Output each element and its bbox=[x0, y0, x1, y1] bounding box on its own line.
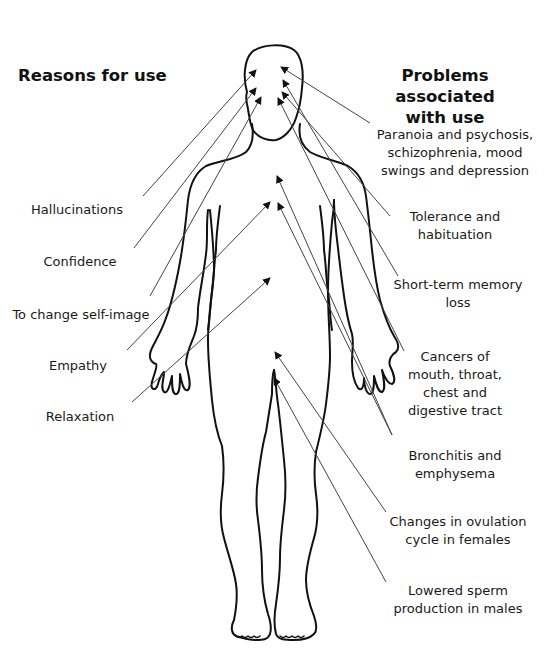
problem-cancers-line: digestive tract bbox=[400, 402, 510, 420]
problem-bronchitis: Bronchitis and emphysema bbox=[400, 447, 510, 483]
problem-cancers-line: chest and bbox=[400, 384, 510, 402]
problem-ovulation: Changes in ovulation cycle in females bbox=[383, 513, 533, 549]
body-effects-diagram: Reasons for use Problems associated with… bbox=[0, 0, 553, 669]
problem-tolerance-line: Tolerance and bbox=[395, 208, 515, 226]
problem-tolerance-line: habituation bbox=[395, 226, 515, 244]
pointer-bronchitis-2 bbox=[278, 203, 392, 435]
problem-short-term-memory: Short-term memory loss bbox=[383, 276, 533, 312]
problem-paranoia-line: swings and depression bbox=[370, 162, 540, 180]
problem-cancers-line: mouth, throat, bbox=[400, 366, 510, 384]
pointer-confidence bbox=[134, 88, 256, 248]
reason-change-self-image: To change self-image bbox=[6, 306, 156, 324]
problem-sperm-line: production in males bbox=[393, 600, 523, 618]
problems-heading-line-1: Problems associated bbox=[355, 65, 535, 107]
problems-heading-line-2: with use bbox=[355, 107, 535, 128]
problem-paranoia-line: Paranoia and psychosis, bbox=[370, 126, 540, 144]
problem-ovulation-line: cycle in females bbox=[383, 531, 533, 549]
problem-ovulation-line: Changes in ovulation bbox=[383, 513, 533, 531]
reason-pointer-lines bbox=[127, 70, 270, 402]
problem-bronchitis-line: emphysema bbox=[400, 465, 510, 483]
problem-sperm-production: Lowered sperm production in males bbox=[393, 582, 523, 618]
problem-cancers: Cancers of mouth, throat, chest and dige… bbox=[400, 348, 510, 420]
pointer-hallucinations bbox=[143, 70, 256, 196]
problem-sperm-line: Lowered sperm bbox=[393, 582, 523, 600]
reason-empathy: Empathy bbox=[38, 357, 118, 375]
pointer-sperm bbox=[274, 378, 386, 582]
problem-paranoia-line: schizophrenia, mood bbox=[370, 144, 540, 162]
reason-confidence: Confidence bbox=[30, 253, 130, 271]
human-body-outline-icon bbox=[150, 45, 398, 640]
problems-heading: Problems associated with use bbox=[355, 65, 535, 128]
pointer-empathy bbox=[127, 202, 270, 350]
pointer-relaxation bbox=[132, 278, 270, 402]
pointer-ovulation bbox=[275, 352, 386, 512]
reason-relaxation: Relaxation bbox=[30, 408, 130, 426]
problem-memory-line: loss bbox=[383, 294, 533, 312]
problem-memory-line: Short-term memory bbox=[383, 276, 533, 294]
problem-paranoia: Paranoia and psychosis, schizophrenia, m… bbox=[370, 126, 540, 180]
reasons-heading: Reasons for use bbox=[18, 65, 168, 86]
problem-cancers-line: Cancers of bbox=[400, 348, 510, 366]
reason-hallucinations: Hallucinations bbox=[22, 201, 132, 219]
problem-tolerance: Tolerance and habituation bbox=[395, 208, 515, 244]
problem-bronchitis-line: Bronchitis and bbox=[400, 447, 510, 465]
